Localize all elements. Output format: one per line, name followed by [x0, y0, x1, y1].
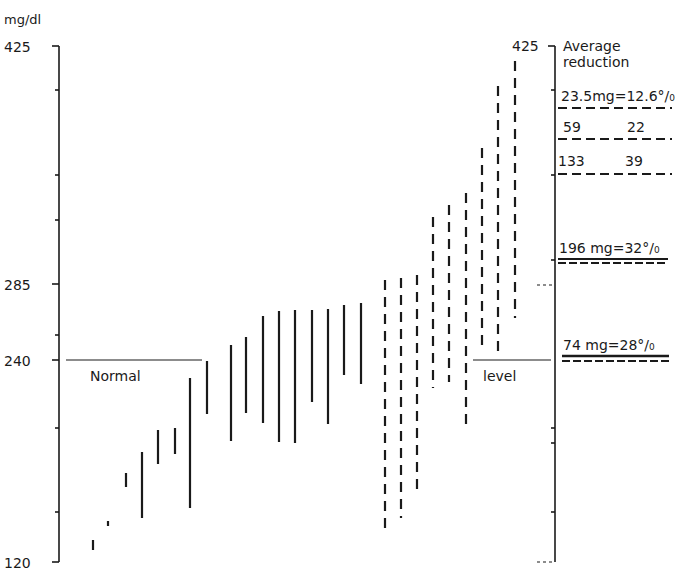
y-unit-label: mg/dl [4, 12, 41, 27]
reduction-entry-2-right: 22 [627, 119, 645, 135]
solid-range-bars [93, 303, 361, 550]
normal-label: Normal [90, 368, 141, 384]
reduction-entry-5: 74 mg=28°/₀ [563, 337, 655, 353]
dashed-range-bars [385, 61, 515, 535]
y-tick-425: 425 [4, 39, 31, 55]
right-axis-dotted-ticks [537, 285, 553, 562]
right-tick-425: 425 [512, 38, 539, 54]
reduction-entry-1: 23.5mg=12.6°/₀ [561, 88, 675, 104]
reduction-entry-4: 196 mg=32°/₀ [559, 240, 660, 256]
reduction-line-4 [558, 259, 668, 263]
level-label: level [483, 368, 516, 384]
average-title-line1: Average [563, 38, 621, 54]
y-tick-285: 285 [4, 277, 31, 293]
chart-canvas: mg/dl 425 285 240 120 Normal level [0, 0, 688, 585]
left-y-axis [52, 46, 59, 562]
reduction-line-5 [562, 356, 669, 361]
y-tick-120: 120 [4, 555, 31, 571]
y-tick-240: 240 [4, 353, 31, 369]
reduction-entry-3-left: 133 [558, 153, 585, 169]
reduction-entry-2-left: 59 [563, 119, 581, 135]
reduction-entry-3-right: 39 [625, 153, 643, 169]
right-y-axis [548, 46, 555, 562]
average-title-line2: reduction [563, 54, 629, 70]
